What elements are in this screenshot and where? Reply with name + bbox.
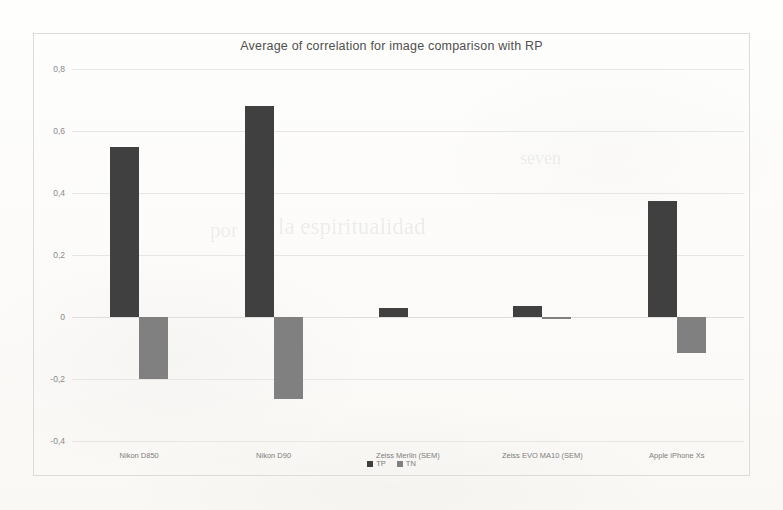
bar-tn xyxy=(677,317,706,353)
bar-tp xyxy=(245,106,274,317)
bar-tp xyxy=(513,306,542,317)
bar-tp xyxy=(110,147,139,318)
bar-group: Zeiss EVO MA10 (SEM) xyxy=(475,69,609,441)
y-axis-tick-label: 0,8 xyxy=(53,64,65,74)
bar-group: Zeiss Merlin (SEM) xyxy=(341,69,475,441)
chart-title: Average of correlation for image compari… xyxy=(34,39,749,53)
y-axis-tick-label: 0,2 xyxy=(53,250,65,260)
legend-swatch-icon xyxy=(397,461,403,467)
plot-area: 0,80,60,40,20-0,2-0,4Nikon D850Nikon D90… xyxy=(72,69,744,441)
chart-frame: Average of correlation for image compari… xyxy=(33,33,750,476)
legend-swatch-icon xyxy=(367,461,373,467)
bar-tn xyxy=(542,317,571,319)
bar-tp xyxy=(379,308,408,317)
bar-group: Nikon D850 xyxy=(72,69,206,441)
legend-item[interactable]: TN xyxy=(397,459,416,468)
chart-legend: TPTN xyxy=(34,459,749,468)
y-axis-tick-label: -0,4 xyxy=(50,436,65,446)
legend-item[interactable]: TP xyxy=(367,459,386,468)
bar-tn xyxy=(274,317,303,399)
y-axis-tick-label: 0 xyxy=(60,312,65,322)
gridline: -0,4 xyxy=(72,441,744,442)
bar-tn xyxy=(139,317,168,379)
bar-group: Apple iPhone Xs xyxy=(610,69,744,441)
legend-label: TN xyxy=(406,459,416,468)
bar-group: Nikon D90 xyxy=(206,69,340,441)
y-axis-tick-label: 0,6 xyxy=(53,126,65,136)
y-axis-tick-label: -0,2 xyxy=(50,374,65,384)
legend-label: TP xyxy=(376,459,386,468)
y-axis-tick-label: 0,4 xyxy=(53,188,65,198)
bar-tp xyxy=(648,201,677,317)
